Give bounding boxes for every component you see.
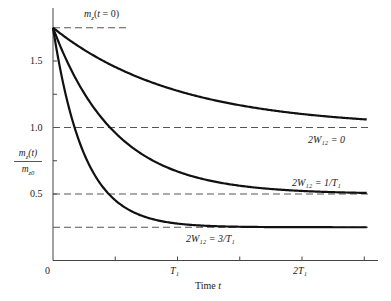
x-tick-label-2T1: 2T₁ [293, 266, 307, 276]
y-axis-numerator: mz(t) [14, 148, 42, 162]
y-tick-label-0.5: 0.5 [30, 189, 43, 199]
curve-label-w3: 2W₁₂ = 3/T₁ [186, 234, 235, 244]
curve-w1 [53, 28, 367, 193]
curve-w0 [53, 28, 367, 120]
y-axis-denominator: mz0 [14, 162, 42, 176]
y-axis-title: mz(t) mz0 [14, 148, 42, 176]
y-tick-label-1.0: 1.0 [30, 123, 43, 133]
x-axis-title: Time t [195, 281, 221, 291]
x-tick-label-T1: T₁ [170, 266, 179, 276]
curve-label-w0: 2W₁₂ = 0 [308, 135, 345, 145]
chart-root: mz(t = 0) mz(t) mz0 1.5 1.0 0.5 0 T₁ 2T₁… [0, 0, 391, 301]
plot-area [0, 0, 391, 301]
y-tick-label-1.5: 1.5 [30, 56, 43, 66]
x-tick-label-0: 0 [45, 266, 50, 276]
initial-value-label: mz(t = 0) [84, 9, 119, 22]
curve-label-w1: 2W₁₂ = 1/T₁ [292, 178, 341, 188]
